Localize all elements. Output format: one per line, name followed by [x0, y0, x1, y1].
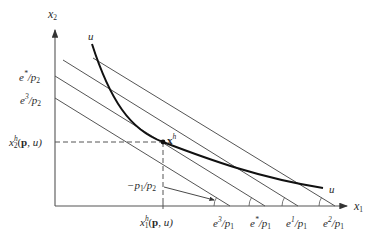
angle-arc-e3 — [214, 197, 217, 206]
angle-arc-e2 — [319, 197, 322, 206]
angle-arc-estar — [249, 197, 252, 206]
y-intercept-label-estar: e*/p2 — [19, 70, 40, 85]
indifference-curve-u — [92, 44, 323, 188]
x-intercept-label-e2: e2/p1 — [323, 216, 344, 231]
hicksian-point-label: xh — [167, 133, 176, 146]
y-axis-label: x2 — [48, 8, 57, 22]
slope-arrow — [164, 187, 214, 200]
curve-label-bottom: u — [329, 184, 335, 195]
angle-arc-e1 — [282, 197, 285, 206]
x-axis-label: x1 — [354, 200, 363, 214]
hicksian-x2-label: xh2(p, u) — [9, 135, 42, 150]
hicksian-point — [161, 140, 166, 145]
x-intercept-label-e1: e1/p1 — [286, 216, 307, 231]
x-intercept-label-estar: e*/p1 — [250, 216, 271, 231]
expenditure-minimization-diagram — [0, 0, 381, 234]
iso-expenditure-line-e1 — [63, 60, 298, 206]
hicksian-x1-label: xh1(p, u) — [140, 215, 173, 230]
y-intercept-label-e3: e3/p2 — [20, 93, 41, 108]
x-intercept-label-e3: e3/p1 — [213, 216, 234, 231]
curve-label-top: u — [88, 31, 94, 42]
slope-label: −p1/p2 — [127, 180, 156, 193]
